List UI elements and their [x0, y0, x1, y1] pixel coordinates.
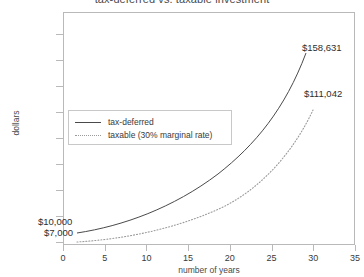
x-axis-tick-label: 10	[133, 253, 159, 263]
x-axis-tick-label: 20	[217, 253, 243, 263]
y-axis-tick	[56, 60, 63, 61]
legend-item-taxable: taxable (30% marginal rate)	[75, 129, 225, 142]
x-axis-tick-label: 30	[300, 253, 326, 263]
y-axis-tick	[56, 34, 63, 35]
x-axis-title: number of years	[63, 265, 355, 275]
x-axis-tick-label: 0	[50, 253, 76, 263]
legend-item-tax-deferred: tax-deferred	[75, 116, 225, 129]
legend-label: taxable (30% marginal rate)	[108, 130, 212, 141]
x-axis-tick	[230, 245, 231, 251]
annotation-taxable-start: $7,000	[44, 227, 73, 238]
x-axis-tick-label: 35	[342, 253, 364, 263]
y-axis-tick	[56, 112, 63, 113]
x-axis-tick-label: 15	[175, 253, 201, 263]
x-axis-tick	[146, 245, 147, 251]
x-axis-tick	[355, 245, 356, 251]
x-axis-tick-label: 25	[259, 253, 285, 263]
chart-title: tax-deferred vs. taxable investment	[0, 0, 364, 5]
x-axis-tick	[63, 245, 64, 251]
chart-container: tax-deferred vs. taxable investment 0 5 …	[0, 0, 364, 277]
annotation-tax-deferred-start: $10,000	[38, 216, 72, 227]
x-axis-tick	[313, 245, 314, 251]
y-axis-tick	[56, 138, 63, 139]
legend-swatch-solid-line-icon	[75, 118, 101, 128]
x-axis-tick	[105, 245, 106, 251]
legend-swatch-dotted-line-icon	[75, 131, 101, 141]
x-axis-tick	[272, 245, 273, 251]
x-axis-tick	[188, 245, 189, 251]
chart-legend: tax-deferred taxable (30% marginal rate)	[68, 110, 232, 145]
annotation-taxable-end: $111,042	[304, 88, 342, 99]
annotation-tax-deferred-end: $158,631	[302, 42, 342, 53]
y-axis-tick	[56, 242, 63, 243]
y-axis-title: dollars	[11, 93, 21, 153]
y-axis-tick	[56, 86, 63, 87]
y-axis-tick	[56, 164, 63, 165]
legend-label: tax-deferred	[108, 117, 154, 128]
y-axis-tick	[56, 190, 63, 191]
x-axis-tick-label: 5	[92, 253, 118, 263]
